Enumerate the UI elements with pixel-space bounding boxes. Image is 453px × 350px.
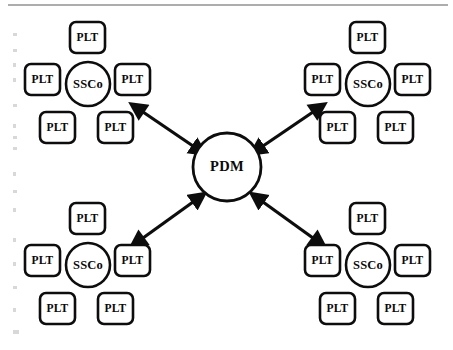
plt-node[interactable]: PLT [40,112,75,143]
ssco-node[interactable]: SSCo [346,62,390,106]
plt-label: PLT [385,302,407,314]
cluster-bottom-right: PLT PLT PLT PLT PLT SSCo [305,203,430,324]
plt-label: PLT [105,302,127,314]
ssco-node[interactable]: SSCo [346,243,390,287]
plt-label: PLT [77,212,99,224]
connector-pdm-bottom-right [263,202,313,238]
plt-node[interactable]: PLT [320,293,355,324]
plt-label: PLT [312,254,334,266]
plt-node[interactable]: PLT [320,112,355,143]
plt-label: PLT [122,73,144,85]
ssco-label: SSCo [73,77,103,91]
plt-label: PLT [327,302,349,314]
plt-label: PLT [32,73,54,85]
plt-node[interactable]: PLT [378,112,413,143]
margin-artifacts [13,33,19,334]
plt-node[interactable]: PLT [350,22,385,53]
diagram-svg: PLT PLT PLT PLT PLT SSCo [0,0,453,350]
plt-node[interactable]: PLT [98,112,133,143]
plt-label: PLT [47,302,69,314]
plt-node[interactable]: PLT [70,203,105,234]
plt-label: PLT [357,31,379,43]
plt-label: PLT [357,212,379,224]
pdm-hub-node[interactable]: PDM [193,133,261,201]
pdm-label: PDM [210,158,244,174]
plt-label: PLT [327,121,349,133]
ssco-node[interactable]: SSCo [66,62,110,106]
diagram-canvas: PLT PLT PLT PLT PLT SSCo [0,0,453,350]
plt-node[interactable]: PLT [305,64,340,95]
connector-pdm-top-right [263,112,313,146]
plt-label: PLT [47,121,69,133]
connector-pdm-top-left [143,112,193,146]
plt-label: PLT [385,121,407,133]
plt-node[interactable]: PLT [305,245,340,276]
plt-node[interactable]: PLT [70,22,105,53]
plt-label: PLT [122,254,144,266]
cluster-top-left: PLT PLT PLT PLT PLT SSCo [25,22,150,143]
plt-node[interactable]: PLT [98,293,133,324]
plt-node[interactable]: PLT [350,203,385,234]
plt-node[interactable]: PLT [25,245,60,276]
connector-pdm-bottom-left [143,202,193,238]
ssco-label: SSCo [353,258,383,272]
plt-node[interactable]: PLT [395,245,430,276]
plt-node[interactable]: PLT [25,64,60,95]
plt-label: PLT [312,73,334,85]
plt-node[interactable]: PLT [378,293,413,324]
plt-node[interactable]: PLT [40,293,75,324]
plt-label: PLT [77,31,99,43]
plt-label: PLT [402,73,424,85]
plt-label: PLT [105,121,127,133]
plt-node[interactable]: PLT [115,64,150,95]
ssco-label: SSCo [73,258,103,272]
cluster-bottom-left: PLT PLT PLT PLT PLT SSCo [25,203,150,324]
plt-label: PLT [32,254,54,266]
ssco-label: SSCo [353,77,383,91]
plt-node[interactable]: PLT [395,64,430,95]
plt-label: PLT [402,254,424,266]
ssco-node[interactable]: SSCo [66,243,110,287]
cluster-top-right: PLT PLT PLT PLT PLT SSCo [305,22,430,143]
plt-node[interactable]: PLT [115,245,150,276]
